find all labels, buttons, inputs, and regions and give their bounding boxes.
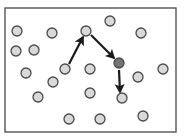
arrow-n11-to-n17 [119,70,120,92]
node-graph-diagram [0,0,184,140]
node [85,64,95,74]
node [95,114,105,124]
node [136,28,146,38]
node [60,64,70,74]
node [12,26,22,36]
node [48,77,58,87]
node [11,46,21,56]
node [133,72,143,82]
node [81,26,91,36]
node [158,64,168,74]
node-highlighted [114,58,124,68]
node [47,28,57,38]
node [21,68,31,78]
node [138,111,148,121]
node [117,93,127,103]
node [105,16,115,26]
node [64,114,74,124]
node [33,92,43,102]
node [29,45,39,55]
node [85,88,95,98]
diagram-canvas [0,0,184,140]
